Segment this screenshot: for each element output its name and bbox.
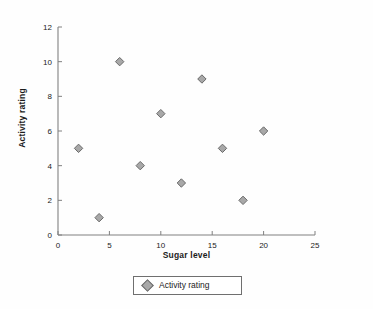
data-point: [239, 196, 247, 204]
scatter-chart: 024681012 0510152025 Activity rating Sug…: [0, 0, 373, 309]
data-point: [218, 144, 226, 152]
y-tick-label: 10: [30, 57, 52, 66]
data-point: [198, 75, 206, 83]
x-axis-title: Sugar level: [0, 250, 373, 260]
x-tick-label: 25: [311, 241, 320, 250]
x-tick-label: 0: [56, 241, 60, 250]
y-tick-label: 8: [30, 92, 52, 101]
y-tick-label: 6: [30, 127, 52, 136]
data-point: [74, 144, 82, 152]
y-tick-label: 12: [30, 23, 52, 32]
y-tick-label: 0: [30, 231, 52, 240]
data-point: [95, 213, 103, 221]
diamond-marker-icon: [141, 279, 154, 292]
x-tick-label: 5: [107, 241, 111, 250]
plot-canvas: [0, 0, 373, 309]
y-tick-label: 2: [30, 196, 52, 205]
data-point: [157, 109, 165, 117]
x-tick-label: 20: [259, 241, 268, 250]
y-axis-ticks: [58, 27, 62, 235]
data-point-group: [74, 57, 267, 221]
data-point: [259, 127, 267, 135]
legend-entry-label: Activity rating: [159, 281, 210, 290]
y-axis-title: Activity rating: [17, 88, 27, 148]
chart-legend[interactable]: Activity rating: [133, 276, 242, 295]
data-point: [115, 57, 123, 65]
y-axis-title-wrap: Activity rating: [14, 0, 30, 235]
x-axis-ticks: [58, 231, 315, 235]
y-tick-label: 4: [30, 161, 52, 170]
x-tick-label: 10: [156, 241, 165, 250]
data-point: [136, 161, 144, 169]
data-point: [177, 179, 185, 187]
x-tick-label: 15: [208, 241, 217, 250]
